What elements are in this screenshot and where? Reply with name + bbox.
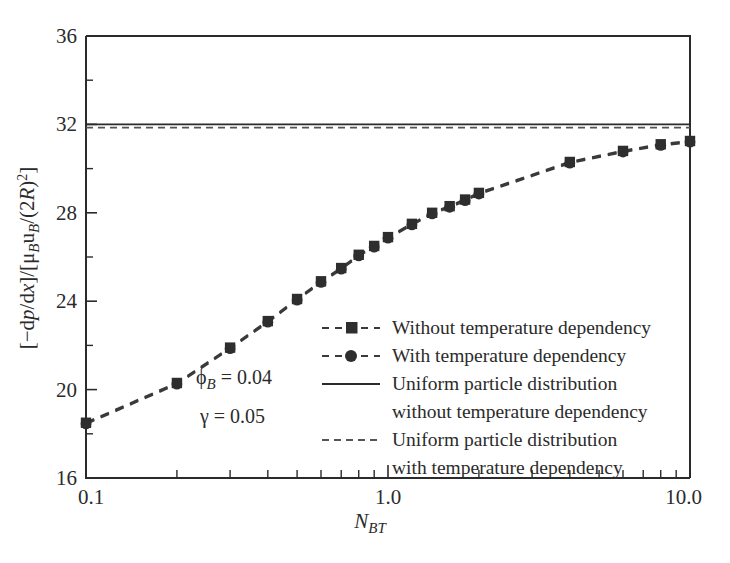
y-tick-label: 36 [56,24,77,48]
legend-label2-ref-solid: without temperature dependency [392,401,648,422]
data-point-circle [460,195,471,206]
data-point-circle [353,250,364,261]
data-point-circle [685,137,696,148]
data-point-circle [474,189,485,200]
annotation-gamma: γ = 0.05 [199,405,265,428]
data-point-circle [427,209,438,220]
chart-canvas: 162024283236 0.11.010.0 [−dp/dx]/[μBuB/(… [0,0,730,563]
legend-label-series-with: With temperature dependency [392,345,626,366]
y-axis-label: [−dp/dx]/[μBuB/(2R)2] [15,167,42,350]
x-tick-label: 10.0 [665,485,702,509]
data-point-circle [336,264,347,275]
y-tick-label: 20 [56,378,77,402]
data-point-circle [262,317,273,328]
y-tick-label: 16 [56,466,77,490]
data-point-circle [564,158,575,169]
legend-marker-circle [345,350,357,362]
data-point-circle [292,295,303,306]
legend-label-ref-solid: Uniform particle distribution [392,373,618,394]
svg-text:γ = 0.05: γ = 0.05 [199,405,265,428]
data-point-circle [618,147,629,158]
legend-label-ref-dashed: Uniform particle distribution [392,429,618,450]
data-point-circle [407,220,418,231]
data-point-circle [383,233,394,244]
data-point-circle [316,277,327,288]
data-point-circle [369,242,380,253]
data-point-circle [172,379,183,390]
y-tick-label: 24 [56,289,78,313]
x-tick-label: 1.0 [375,485,401,509]
data-point-circle [225,343,236,354]
legend-marker-square [346,322,358,334]
y-tick-label: 28 [56,201,77,225]
legend-label2-ref-dashed: with temperature dependency [392,457,623,478]
figure-container: 162024283236 0.11.010.0 [−dp/dx]/[μBuB/(… [0,0,730,563]
x-tick-label: 0.1 [78,485,104,509]
data-point-circle [655,140,666,151]
svg-text:[−dp/dx]/[μBuB/(2R)2]: [−dp/dx]/[μBuB/(2R)2] [15,167,42,350]
y-tick-label: 32 [56,112,77,136]
legend-label-series-without: Without temperature dependency [392,317,651,338]
data-point-circle [81,418,92,429]
data-point-circle [444,202,455,213]
